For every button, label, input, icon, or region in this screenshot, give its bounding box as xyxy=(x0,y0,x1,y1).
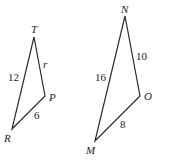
side-label-no: 10 xyxy=(136,50,148,62)
side-label-tp: r xyxy=(43,58,48,70)
triangle-tpr: T P R 12 r 6 xyxy=(3,23,56,144)
vertex-label-n: N xyxy=(120,3,129,15)
triangle-tpr-outline xyxy=(12,37,45,129)
vertex-label-r: R xyxy=(3,132,11,144)
side-label-mo: 8 xyxy=(120,118,126,130)
vertex-label-m: M xyxy=(85,144,96,156)
vertex-label-p: P xyxy=(48,91,56,103)
vertex-label-t: T xyxy=(31,23,38,35)
side-label-nm: 16 xyxy=(95,71,107,83)
triangle-nom: N O M 16 10 8 xyxy=(85,3,152,156)
vertex-label-o: O xyxy=(144,90,152,102)
side-label-rp: 6 xyxy=(34,109,40,121)
similar-triangles-diagram: T P R 12 r 6 N O M 16 10 8 xyxy=(0,0,170,162)
side-label-tr: 12 xyxy=(8,71,19,83)
